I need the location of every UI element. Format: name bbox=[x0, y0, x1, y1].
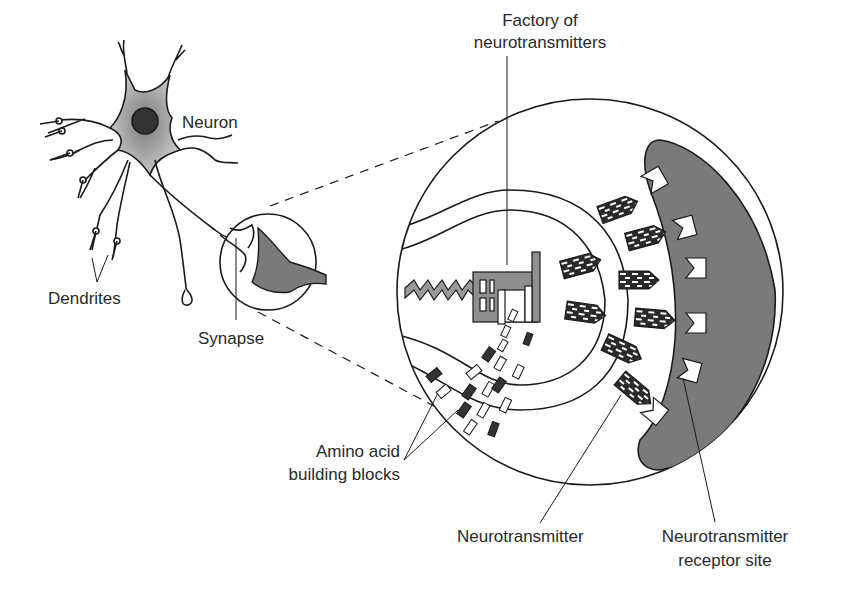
factory-label-line1: Factory of bbox=[450, 10, 630, 31]
dendrites-pointer bbox=[92, 255, 108, 282]
magnified-synapse bbox=[397, 99, 783, 485]
neuron-diagram bbox=[0, 0, 852, 602]
receptor-label-line1: Neurotransmitter bbox=[640, 526, 810, 547]
amino-label-line1: Amino acid bbox=[250, 441, 400, 462]
amino-label-line2: building blocks bbox=[250, 464, 400, 485]
synapse-label: Synapse bbox=[198, 328, 264, 349]
factory-label-line2: neurotransmitters bbox=[450, 32, 630, 53]
nucleus bbox=[132, 108, 158, 134]
dendrites-label: Dendrites bbox=[48, 288, 121, 309]
synapse-magnifier bbox=[220, 214, 326, 320]
neurotransmitter-label: Neurotransmitter bbox=[457, 526, 584, 547]
receptor-label-line2: receptor site bbox=[640, 550, 810, 571]
neuron-label: Neuron bbox=[182, 112, 238, 133]
neuron bbox=[40, 40, 240, 305]
